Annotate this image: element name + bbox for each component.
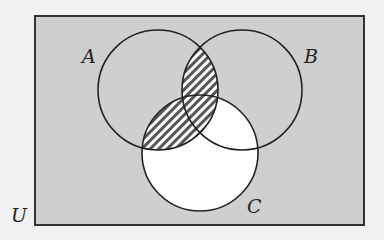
label-b: B [303, 45, 318, 67]
label-a: A [80, 45, 96, 67]
label-c: C [247, 195, 262, 217]
venn-diagram: A B C U [0, 0, 384, 240]
label-u: U [11, 204, 28, 226]
